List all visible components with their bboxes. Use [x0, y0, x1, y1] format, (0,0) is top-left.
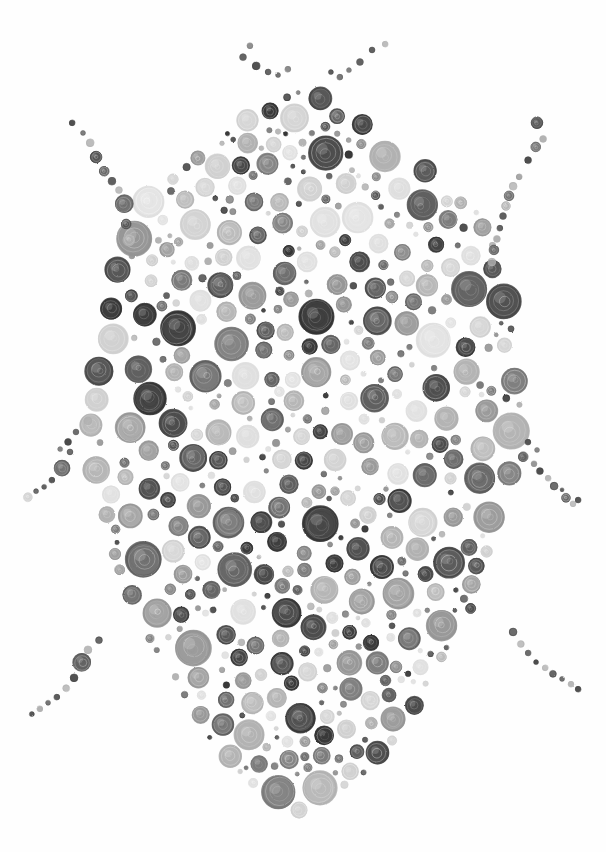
body-dot [303, 415, 312, 424]
leg-mid-right-dot [535, 448, 540, 453]
body-dot [406, 538, 429, 561]
body-dot [338, 535, 343, 540]
leg-fore-right-dot [516, 174, 522, 180]
body-dot [267, 532, 286, 551]
body-dot [189, 406, 193, 410]
body-dot [118, 470, 133, 485]
body-dot [309, 87, 332, 110]
body-dot [350, 282, 357, 289]
body-dot [345, 151, 353, 159]
body-dot [319, 700, 324, 705]
body-dot [174, 347, 190, 363]
body-dot [283, 245, 295, 257]
body-dot [177, 626, 183, 632]
antenna-left-dot [265, 69, 271, 75]
body-dot [154, 647, 160, 653]
body-dot [378, 204, 384, 209]
body-dot [133, 186, 164, 217]
body-dot [454, 359, 479, 384]
body-dot [428, 306, 436, 314]
body-dot [409, 362, 414, 367]
body-dot [99, 506, 115, 522]
body-dot [285, 427, 290, 433]
body-dot [297, 246, 301, 250]
body-dot [275, 735, 279, 739]
body-dot [366, 741, 389, 764]
body-dot [344, 339, 349, 344]
body-dot [265, 593, 271, 599]
leg-mid-right-dot [536, 468, 543, 475]
body-dot [387, 279, 394, 286]
body-dot [284, 178, 291, 185]
body-dot [413, 232, 418, 237]
body-dot [463, 575, 481, 593]
body-dot [232, 157, 249, 174]
body-dot [217, 625, 236, 644]
body-dot [224, 379, 232, 387]
body-dot [101, 298, 122, 319]
body-dot [304, 763, 313, 772]
body-dot [125, 290, 137, 302]
body-dot [271, 652, 293, 674]
body-dot [221, 207, 228, 214]
body-dot [217, 394, 222, 399]
body-dot [255, 669, 267, 681]
body-dot [116, 413, 145, 442]
body-dot [223, 682, 230, 689]
body-dot [428, 651, 434, 657]
body-dot [354, 433, 374, 453]
body-dot [247, 416, 252, 421]
body-dot [262, 103, 278, 119]
body-dot [342, 625, 356, 639]
body-dot [441, 294, 451, 304]
leg-fore-left-dot [99, 166, 109, 176]
body-dot [249, 171, 257, 179]
body-dot [350, 519, 359, 528]
body-dot [386, 633, 394, 641]
body-dot [431, 537, 435, 541]
body-dot [378, 378, 383, 383]
body-dot [350, 252, 370, 272]
body-dot [233, 272, 241, 280]
body-dot [471, 437, 495, 461]
body-dot [302, 339, 318, 355]
body-dot [314, 648, 323, 656]
leg-hind-right-dot [560, 676, 565, 681]
body-dot [313, 747, 330, 764]
antenna-right-dot [337, 74, 343, 80]
body-dot [268, 398, 274, 405]
body-dot [303, 771, 337, 805]
body-dot [208, 472, 215, 479]
body-dot [405, 697, 423, 715]
body-dot [165, 634, 171, 640]
leg-hind-right-dot [542, 665, 548, 671]
leg-mid-left-dot [65, 438, 72, 445]
body-dot [301, 753, 309, 761]
body-dot [400, 271, 415, 286]
body-dot [158, 215, 168, 225]
leg-mid-left-dot [23, 493, 32, 502]
body-dot [199, 274, 207, 282]
body-dot [196, 314, 206, 324]
body-dot [383, 578, 413, 608]
leg-mid-left-dot [67, 449, 73, 455]
body-dot [234, 720, 264, 750]
body-dot [261, 605, 266, 610]
body-dot [365, 278, 385, 298]
body-dot [332, 629, 340, 636]
body-dot [225, 131, 230, 136]
body-dot [321, 122, 330, 131]
leg-hind-left-dot [96, 637, 103, 644]
body-dot [487, 285, 521, 319]
body-dot [272, 439, 280, 447]
leg-hind-left-dot [70, 674, 78, 682]
body-dot [431, 365, 437, 371]
body-dot [365, 717, 377, 729]
body-dot [202, 610, 209, 617]
body-dot [439, 211, 457, 229]
leg-hind-left-dot [63, 685, 70, 692]
body-dot [218, 692, 234, 708]
body-dot [240, 713, 245, 718]
leg-hind-left-dot [84, 646, 92, 654]
body-dot [335, 754, 343, 762]
